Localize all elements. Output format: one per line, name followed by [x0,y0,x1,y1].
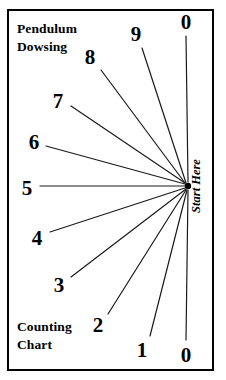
start-here-label: Start Here [189,159,204,213]
title-bottom-line2: Chart [17,336,72,354]
title-top-line1: Pendulum [17,20,77,38]
title-top-line2: Dowsing [17,38,77,56]
digit-label-8-2: 8 [85,47,96,68]
digit-label-7-3: 7 [53,91,64,112]
digit-label-1-9: 1 [137,340,148,361]
ray-line-4-6 [50,188,185,232]
chart-title-top: Pendulum Dowsing [17,20,77,56]
digit-label-0-10: 0 [181,345,192,366]
ray-line-9-1 [142,48,186,183]
digit-label-4-6: 4 [32,228,43,249]
digit-label-6-4: 6 [29,132,40,153]
digit-label-5-5: 5 [22,178,33,199]
digit-label-9-1: 9 [131,24,142,45]
ray-line-6-4 [46,146,185,184]
digit-label-2-8: 2 [93,315,104,336]
pendulum-dowsing-chart: 09876543210 Pendulum Dowsing Counting Ch… [0,0,226,380]
digit-label-0-0: 0 [181,12,192,33]
ray-line-8-2 [101,70,185,183]
ray-line-7-3 [71,106,185,183]
chart-title-bottom: Counting Chart [17,318,72,354]
chart-border-frame [8,10,213,370]
digit-label-3-7: 3 [54,275,65,296]
ray-line-2-8 [108,190,186,314]
title-bottom-line1: Counting [17,318,72,336]
